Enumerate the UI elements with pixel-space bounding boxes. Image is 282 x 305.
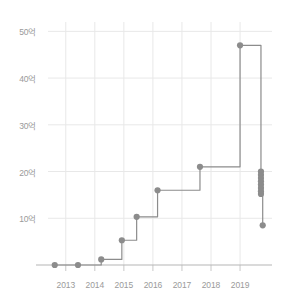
x-tick-label-2015: 2015 [115, 280, 134, 290]
y-tick-label-40억: 40억 [4, 72, 36, 84]
x-tick-label-2017: 2017 [173, 280, 192, 290]
data-point-marker[interactable] [52, 262, 58, 268]
chart-plot-svg [0, 0, 282, 305]
x-tick-label-2018: 2018 [202, 280, 221, 290]
data-point-marker[interactable] [134, 214, 140, 220]
x-tick-label-2019: 2019 [231, 280, 250, 290]
data-point-marker[interactable] [260, 222, 266, 228]
chart-container: 10억20억30억40억50억 201320142015201620172018… [0, 0, 282, 305]
series-markers [52, 42, 266, 268]
y-tick-label-50억: 50억 [4, 25, 36, 37]
x-tick-label-2016: 2016 [144, 280, 163, 290]
data-point-marker[interactable] [237, 42, 243, 48]
data-point-marker[interactable] [154, 187, 160, 193]
grid-lines [48, 22, 272, 265]
y-tick-label-10억: 10억 [4, 212, 36, 224]
x-tick-label-2013: 2013 [57, 280, 76, 290]
data-point-marker[interactable] [98, 256, 104, 262]
data-point-marker[interactable] [197, 164, 203, 170]
data-point-marker[interactable] [119, 237, 125, 243]
y-tick-label-20억: 20억 [4, 166, 36, 178]
y-tick-label-30억: 30억 [4, 119, 36, 131]
data-point-marker[interactable] [258, 191, 264, 197]
x-tick-marks [66, 265, 240, 271]
data-point-marker[interactable] [75, 262, 81, 268]
x-tick-label-2014: 2014 [86, 280, 105, 290]
